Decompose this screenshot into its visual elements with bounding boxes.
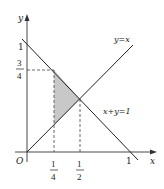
x-axis-label: x — [150, 156, 155, 166]
y-axis-label: y — [17, 13, 24, 23]
y-tick-three-quarters-den: 4 — [17, 71, 22, 81]
x-tick-one-quarter-num: 1 — [51, 159, 56, 169]
y-axis-arrow-icon — [25, 14, 30, 21]
coordinate-diagram: y x O 1 1 3 4 1 4 1 2 y=x x+y=1 — [0, 0, 164, 189]
x-tick-one-half-den: 2 — [77, 172, 82, 182]
x-axis-arrow-icon — [150, 150, 157, 155]
x-tick-one: 1 — [126, 156, 132, 166]
x-tick-one-quarter-den: 4 — [51, 172, 56, 182]
origin-label: O — [16, 156, 24, 166]
y-tick-three-quarters-num: 3 — [17, 58, 22, 68]
shaded-region — [54, 70, 80, 125]
y-tick-one: 1 — [18, 42, 24, 52]
line-x-plus-y-equals-1-label: x+y=1 — [103, 107, 131, 116]
x-tick-one-half-num: 1 — [77, 159, 82, 169]
line-y-equals-x-label: y=x — [113, 35, 130, 44]
